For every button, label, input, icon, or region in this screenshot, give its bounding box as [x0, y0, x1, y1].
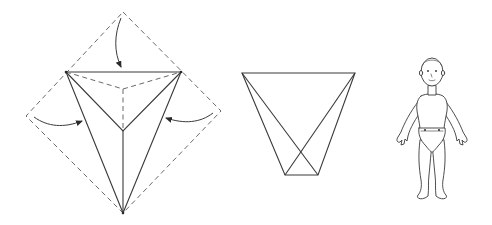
- diaper-folding-diagram: [0, 0, 492, 225]
- fold-arrow-right-icon: [166, 113, 213, 122]
- fold-arrow-left-icon: [34, 117, 82, 126]
- diaper-cross-fold-left: [242, 73, 318, 175]
- diaper-cross-fold-right: [285, 73, 355, 175]
- fold-arrow-top-icon: [116, 18, 121, 67]
- step-2-folded-diaper: [242, 73, 355, 175]
- step-3-baby-illustration: [397, 58, 467, 199]
- hidden-fold-line: [66, 72, 181, 89]
- diaper-trapezoid-outline: [242, 73, 355, 175]
- step-1-fold-diagram: [26, 12, 221, 214]
